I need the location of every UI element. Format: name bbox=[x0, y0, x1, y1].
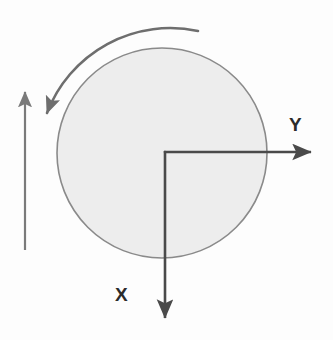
x-axis-label: X bbox=[115, 285, 128, 304]
diagram-canvas bbox=[0, 0, 333, 340]
rotating-disk-coordinate-diagram: Y X bbox=[0, 0, 333, 340]
y-axis-label: Y bbox=[289, 115, 302, 134]
axes-origin-point bbox=[164, 151, 167, 154]
